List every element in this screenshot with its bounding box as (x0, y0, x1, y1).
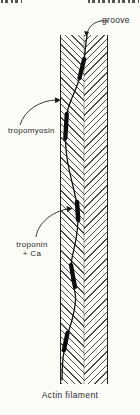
actin-filament-band (60, 35, 108, 384)
cropped-header-text-right (88, 0, 139, 3)
label-tropomyosin: tropomyosin (8, 126, 55, 135)
figure-page: groove tropomyosin troponin + Ca Actin f… (0, 0, 140, 415)
label-troponin-line1: troponin (12, 240, 52, 249)
figure-caption: Actin filament (0, 390, 140, 400)
tropomyosin-leader-line (20, 100, 56, 125)
groove-seam-line (84, 35, 85, 384)
label-troponin-line2: + Ca (12, 249, 52, 258)
label-groove: groove (102, 16, 130, 25)
label-troponin: troponin + Ca (12, 240, 52, 258)
chevron-hatch-left (61, 35, 84, 384)
chevron-hatch-right (84, 35, 107, 384)
cropped-header-text-left (1, 0, 22, 3)
